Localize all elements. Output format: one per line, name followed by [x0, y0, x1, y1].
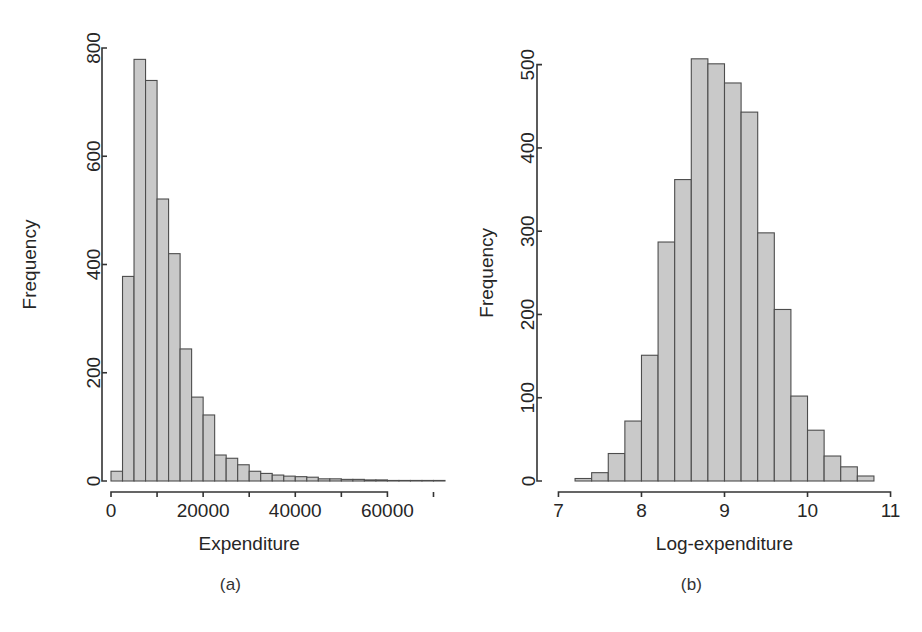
y-axis: 0200400600800 — [83, 32, 108, 486]
histogram-bar — [741, 112, 758, 481]
y-tick-label: 100 — [518, 382, 539, 414]
histogram-bar — [157, 199, 169, 481]
histogram-bar — [399, 480, 411, 481]
histogram-bar — [575, 479, 592, 482]
histogram-bar — [625, 421, 642, 481]
histogram-bar — [422, 480, 434, 481]
histogram-bar — [691, 59, 708, 481]
figure: 0200400600800Frequency0200004000060000Ex… — [0, 0, 922, 632]
x-tick-label: 7 — [553, 500, 564, 521]
histogram-bar — [708, 64, 725, 481]
histogram-bar — [146, 80, 158, 481]
histogram-bar — [111, 471, 123, 481]
y-tick-label: 0 — [83, 476, 104, 487]
x-tick-label: 0 — [106, 500, 117, 521]
histogram-bar — [808, 430, 825, 481]
histogram-bar — [353, 479, 365, 481]
histogram-bar — [123, 276, 135, 481]
histogram-bar — [791, 396, 808, 481]
histogram-bar — [307, 477, 319, 481]
y-tick-label: 400 — [83, 249, 104, 281]
histogram-bar — [134, 59, 146, 481]
y-tick-label: 200 — [518, 299, 539, 331]
x-axis: 0200004000060000 — [106, 492, 434, 521]
histogram-bar — [841, 467, 858, 481]
y-tick-label: 300 — [518, 215, 539, 247]
caption-b: (b) — [461, 575, 922, 595]
y-tick-label: 200 — [83, 357, 104, 389]
y-axis-spine — [537, 65, 542, 481]
histogram-bar — [203, 415, 215, 481]
histogram-bar — [295, 477, 307, 481]
histogram-bar — [410, 480, 422, 481]
histogram-bar — [675, 180, 692, 481]
histogram-bar — [433, 480, 445, 481]
histogram-bar — [284, 476, 296, 481]
histogram-bar — [364, 480, 376, 481]
histogram-bar — [376, 480, 388, 481]
x-tick-label: 40000 — [269, 500, 322, 521]
y-axis-title: Frequency — [19, 219, 40, 309]
caption-a: (a) — [0, 575, 461, 595]
bars-group — [111, 59, 445, 481]
histogram-bar — [774, 309, 791, 481]
x-axis: 7891011 — [553, 492, 900, 521]
x-tick-label: 11 — [881, 500, 901, 521]
panel-b: 0100200300400500Frequency7891011Log-expe… — [461, 0, 922, 632]
histogram-bar — [341, 479, 353, 481]
y-axis-title: Frequency — [476, 227, 497, 317]
histogram-bar — [226, 458, 238, 481]
y-tick-label: 800 — [83, 32, 104, 64]
histogram-bar — [169, 254, 181, 481]
x-tick-label: 9 — [719, 500, 730, 521]
x-axis-title: Expenditure — [199, 533, 300, 554]
panel-a: 0200400600800Frequency0200004000060000Ex… — [0, 0, 461, 632]
x-axis-title: Log-expenditure — [656, 533, 793, 554]
x-tick-label: 10 — [797, 500, 818, 521]
y-tick-label: 600 — [83, 140, 104, 172]
histogram-bar — [261, 473, 273, 481]
y-tick-label: 400 — [518, 132, 539, 164]
bars-group — [575, 59, 874, 481]
histogram-bar — [758, 233, 775, 481]
histogram-bar — [238, 465, 250, 481]
histogram-bar — [592, 473, 609, 481]
x-tick-label: 60000 — [361, 500, 414, 521]
histogram-expenditure: 0200400600800Frequency0200004000060000Ex… — [0, 0, 461, 570]
histogram-bar — [857, 476, 874, 481]
histogram-bar — [318, 479, 330, 481]
histogram-bar — [387, 480, 399, 481]
x-tick-label: 20000 — [177, 500, 230, 521]
histogram-bar — [215, 455, 227, 481]
y-tick-label: 500 — [518, 49, 539, 81]
histogram-bar — [192, 397, 204, 481]
histogram-bar — [180, 349, 192, 481]
histogram-bar — [330, 479, 342, 481]
y-tick-label: 0 — [518, 476, 539, 487]
histogram-bar — [249, 471, 261, 481]
histogram-log-expenditure: 0100200300400500Frequency7891011Log-expe… — [461, 0, 922, 570]
histogram-bar — [272, 475, 284, 481]
y-axis: 0100200300400500 — [518, 49, 543, 486]
histogram-bar — [608, 454, 625, 481]
histogram-bar — [824, 456, 841, 481]
x-tick-label: 8 — [636, 500, 647, 521]
histogram-bar — [658, 242, 675, 481]
histogram-bar — [725, 83, 742, 481]
histogram-bar — [641, 355, 658, 481]
